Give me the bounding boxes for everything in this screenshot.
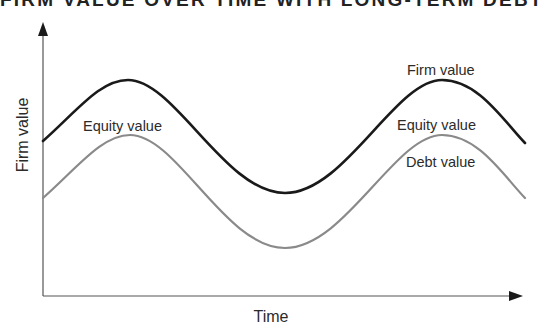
equity-value-curve	[43, 135, 525, 248]
firm-value-label-right: Firm value	[407, 62, 475, 78]
x-axis-label: Time	[254, 308, 289, 325]
equity-value-label-right: Equity value	[397, 117, 476, 133]
x-axis	[43, 291, 523, 301]
equity-value-label-left: Equity value	[83, 118, 162, 134]
y-axis-label: Firm value	[14, 98, 31, 173]
x-axis-arrow-icon	[509, 291, 523, 301]
debt-value-label-right: Debt value	[406, 154, 475, 170]
y-axis-arrow-icon	[38, 22, 48, 36]
y-axis	[38, 22, 48, 296]
chart-canvas: Equity value Firm value Equity value Deb…	[0, 0, 544, 334]
